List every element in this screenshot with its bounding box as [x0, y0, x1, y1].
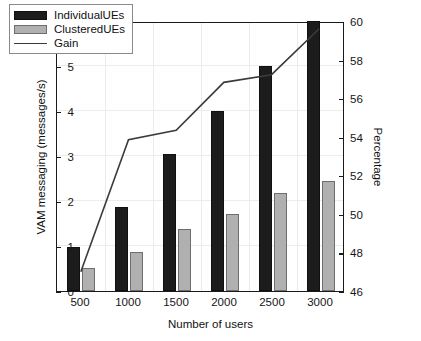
legend-label-individualues: IndividualUEs: [54, 9, 124, 21]
y-axis-right-tick-mark: [339, 138, 344, 139]
y-axis-right-tick-label: 54: [350, 132, 390, 144]
y-axis-tick-mark: [56, 157, 61, 158]
legend-item-individualues: IndividualUEs: [14, 8, 125, 22]
legend-item-gain: Gain: [14, 36, 125, 50]
y-axis-right-tick-label: 52: [350, 170, 390, 182]
legend: IndividualUEs ClusteredUEs Gain: [9, 4, 133, 54]
x-axis-tick-label: 2000: [211, 296, 237, 308]
x-axis-tick-label: 1500: [163, 296, 189, 308]
y-axis-right-tick-label: 56: [350, 93, 390, 105]
legend-swatch-gain: [14, 39, 47, 48]
y-axis-right-tick-mark: [339, 61, 344, 62]
y-axis-right-tick-mark: [339, 99, 344, 100]
y-axis-right-tick-label: 58: [350, 55, 390, 67]
gain-line-layer: [57, 23, 343, 291]
y-axis-tick-mark: [56, 67, 61, 68]
y-axis-right-tick-label: 46: [350, 286, 390, 298]
y-axis-right-tick-mark: [339, 176, 344, 177]
y-axis-right-tick-label: 60: [350, 16, 390, 28]
y-axis-right-tick-label: 48: [350, 247, 390, 259]
y-axis-tick-mark: [56, 247, 61, 248]
y-axis-right-tick-mark: [339, 292, 344, 293]
x-axis-tick-label: 3000: [307, 296, 333, 308]
y-axis-tick-mark: [56, 292, 61, 293]
legend-label-clusteredues: ClusteredUEs: [54, 23, 125, 35]
x-axis-tick-label: 1000: [115, 296, 141, 308]
y-axis-tick-label: 0: [34, 286, 74, 298]
y-axis-tick-mark: [56, 202, 61, 203]
legend-label-gain: Gain: [54, 37, 78, 49]
x-axis-tick-label: 500: [70, 296, 89, 308]
y-axis-left-label: VAM messaging (messages/s): [35, 42, 47, 272]
figure: × 10⁵ 0123456 4648505254565860 500100015…: [0, 0, 421, 341]
x-axis-label: Number of users: [0, 318, 421, 330]
y-axis-tick-mark: [56, 112, 61, 113]
legend-swatch-individualues: [14, 11, 47, 20]
y-axis-right-tick-mark: [339, 22, 344, 23]
y-axis-right-tick-mark: [339, 253, 344, 254]
y-axis-right-tick-mark: [339, 215, 344, 216]
y-axis-right-tick-label: 50: [350, 209, 390, 221]
x-axis-tick-label: 2500: [259, 296, 285, 308]
legend-swatch-clusteredues: [14, 25, 47, 34]
y-axis-right-label: Percentage: [372, 42, 384, 272]
plot-area: [56, 22, 344, 292]
legend-item-clusteredues: ClusteredUEs: [14, 22, 125, 36]
